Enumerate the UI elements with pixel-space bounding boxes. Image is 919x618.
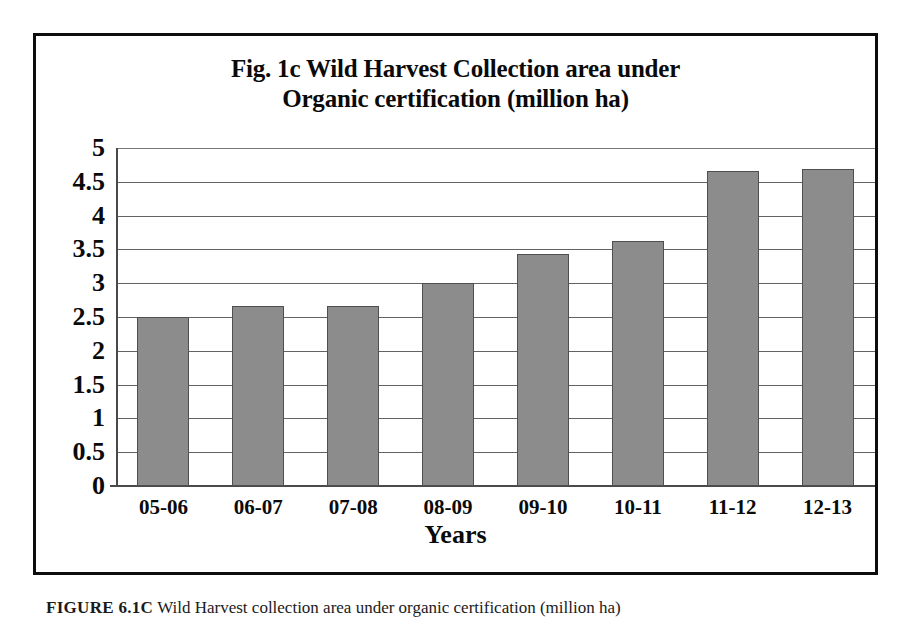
bar	[422, 283, 474, 486]
bar-group: 07-08	[306, 148, 401, 486]
y-axis-tick-label: 0.5	[73, 437, 106, 467]
bar	[707, 171, 759, 486]
y-axis-tick-label: 3	[92, 268, 105, 298]
chart-title: Fig. 1c Wild Harvest Collection area und…	[36, 54, 875, 113]
figure-caption-label: FIGURE 6.1C	[46, 598, 153, 617]
bar	[802, 169, 854, 486]
y-axis-tick-label: 2	[92, 336, 105, 366]
x-axis-tick-label: 11-12	[709, 495, 757, 520]
bar	[137, 317, 189, 486]
bar-group: 10-11	[590, 148, 685, 486]
bar-group: 09-10	[496, 148, 591, 486]
x-axis-tick-label: 07-08	[329, 495, 378, 520]
chart-title-line-2: Organic certification (million ha)	[36, 84, 875, 114]
chart-frame: Fig. 1c Wild Harvest Collection area und…	[33, 33, 878, 575]
bar	[232, 306, 284, 486]
bar	[517, 254, 569, 486]
figure-caption: FIGURE 6.1C Wild Harvest collection area…	[46, 597, 886, 618]
y-axis-tick-label: 0	[92, 471, 105, 501]
x-axis-tick-label: 05-06	[139, 495, 188, 520]
x-axis-tick-label: 12-13	[803, 495, 852, 520]
y-axis-tick-label: 1	[92, 403, 105, 433]
bar-group: 06-07	[211, 148, 306, 486]
x-axis-title: Years	[36, 520, 875, 550]
y-axis-tick-label: 2.5	[73, 302, 106, 332]
chart-title-line-1: Fig. 1c Wild Harvest Collection area und…	[36, 54, 875, 84]
bar-group: 08-09	[401, 148, 496, 486]
x-axis-tick-label: 08-09	[424, 495, 473, 520]
x-axis-tick-label: 10-11	[614, 495, 662, 520]
bar-group: 05-06	[116, 148, 211, 486]
bar	[612, 241, 664, 486]
figure-caption-text: Wild Harvest collection area under organ…	[157, 598, 620, 617]
bar	[327, 306, 379, 486]
y-axis-tick-label: 5	[92, 133, 105, 163]
bar-group: 12-13	[780, 148, 875, 486]
bars-layer: 05-0606-0707-0808-0909-1010-1111-1212-13	[116, 148, 875, 486]
bar-group: 11-12	[685, 148, 780, 486]
y-axis-tick-label: 3.5	[73, 234, 106, 264]
y-axis-tick-label: 4.5	[73, 167, 106, 197]
x-axis-tick-label: 09-10	[518, 495, 567, 520]
y-axis-tick-label: 1.5	[73, 370, 106, 400]
plot-area: 54.543.532.521.510.50 05-0606-0707-0808-…	[116, 148, 875, 486]
y-axis-tick-label: 4	[92, 201, 105, 231]
x-axis-tick-label: 06-07	[234, 495, 283, 520]
